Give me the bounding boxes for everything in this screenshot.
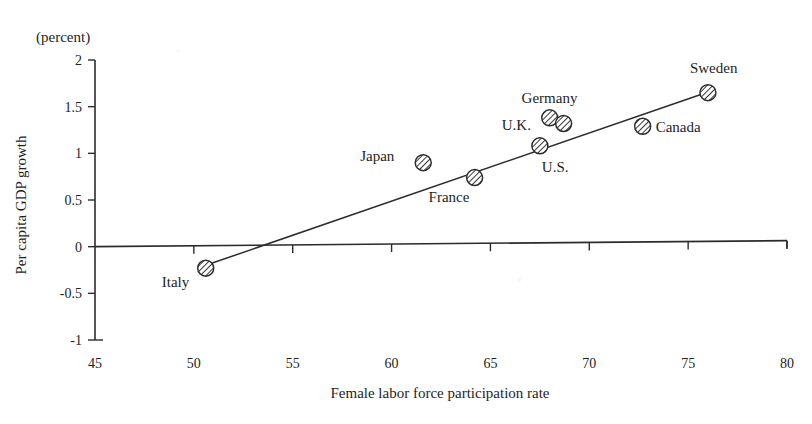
- trend-line: [206, 93, 706, 266]
- data-point[interactable]: Canada: [635, 118, 701, 135]
- point-marker[interactable]: [467, 170, 483, 186]
- data-point[interactable]: Sweden: [690, 60, 738, 101]
- point-marker[interactable]: [700, 85, 716, 101]
- point-marker[interactable]: [556, 115, 572, 131]
- point-marker[interactable]: [198, 260, 214, 276]
- x-tick-label: 75: [681, 356, 695, 371]
- y-tick-label: -1: [70, 333, 82, 348]
- data-point[interactable]: U.K.: [502, 110, 558, 133]
- data-point[interactable]: France: [429, 170, 483, 205]
- point-label: Sweden: [690, 60, 738, 76]
- point-label: Canada: [656, 119, 701, 135]
- point-label: U.K.: [502, 117, 531, 133]
- x-axis-line: [95, 241, 787, 247]
- data-points: ItalyJapanFranceU.S.U.K.GermanyCanadaSwe…: [162, 60, 738, 290]
- unit-note: (percent): [36, 29, 90, 46]
- data-point[interactable]: Italy: [162, 260, 214, 290]
- y-tick-label: 1: [75, 146, 82, 161]
- point-label: Germany: [522, 90, 578, 106]
- y-tick-label: 0: [75, 240, 82, 255]
- x-tick-label: 65: [483, 356, 497, 371]
- data-point[interactable]: Japan: [360, 148, 431, 171]
- point-label: France: [429, 189, 470, 205]
- point-label: U.S.: [542, 159, 569, 175]
- x-tick-label: 45: [88, 356, 102, 371]
- y-axis-ticks: -1-0.500.511.52: [60, 53, 95, 348]
- x-axis-ticks: 4550556065707580: [88, 241, 794, 371]
- y-tick-label: 1.5: [65, 100, 83, 115]
- point-marker[interactable]: [532, 138, 548, 154]
- x-tick-label: 70: [582, 356, 596, 371]
- point-marker[interactable]: [415, 155, 431, 171]
- point-label: Italy: [162, 274, 190, 290]
- scatter-chart: -1-0.500.511.52 4550556065707580 ItalyJa…: [0, 0, 812, 424]
- y-tick-label: 2: [75, 53, 82, 68]
- y-tick-label: 0.5: [65, 193, 83, 208]
- regression-line: [206, 93, 706, 266]
- point-label: Japan: [360, 148, 395, 164]
- x-tick-label: 80: [780, 356, 794, 371]
- x-axis-title: Female labor force participation rate: [330, 385, 549, 401]
- y-tick-label: -0.5: [60, 286, 82, 301]
- x-tick-label: 60: [385, 356, 399, 371]
- y-axis-title: Per capita GDP growth: [13, 135, 29, 274]
- point-marker[interactable]: [635, 118, 651, 134]
- chart-canvas: -1-0.500.511.52 4550556065707580 ItalyJa…: [0, 0, 812, 424]
- x-tick-label: 55: [286, 356, 300, 371]
- data-point[interactable]: U.S.: [532, 138, 569, 175]
- x-tick-label: 50: [187, 356, 201, 371]
